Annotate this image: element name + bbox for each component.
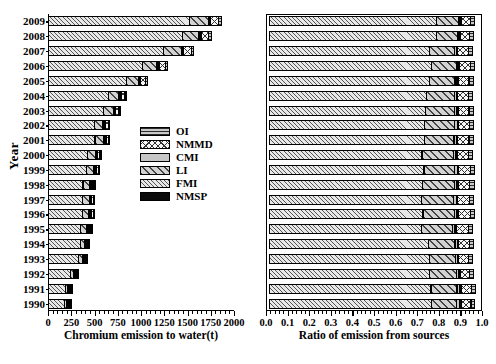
bar-row: 1990 — [48, 299, 234, 309]
bar-segment-oi — [468, 46, 473, 56]
bar-segment-fmi — [269, 180, 423, 190]
bar-row — [266, 209, 482, 219]
x-major-tick — [439, 311, 440, 316]
x-tick-label-250: 250 — [63, 317, 79, 328]
bar-segment-oi — [86, 254, 88, 264]
bar-segment-li — [429, 76, 456, 86]
x-minor-tick — [178, 311, 179, 314]
x-minor-tick — [206, 311, 207, 314]
bar-segment-oi — [470, 209, 475, 219]
x-minor-tick — [225, 311, 226, 314]
bar-row — [266, 195, 482, 205]
legend-swatch-fmi — [140, 179, 170, 188]
bar-segment-fmi — [48, 150, 88, 160]
x-major-tick — [141, 311, 142, 316]
bar-segment-oi — [208, 31, 212, 41]
bar-segment-nmmd — [456, 224, 469, 234]
x-minor-tick — [434, 311, 435, 314]
x-minor-tick — [318, 311, 319, 314]
x-axis-title-left: Chromium emission to water(t) — [64, 329, 218, 341]
stacked-bar-absolute — [48, 91, 127, 101]
y-tick-label-2006: 2006 — [23, 61, 45, 71]
stacked-bar-absolute — [48, 284, 73, 294]
bar-segment-oi — [469, 269, 474, 279]
x-major-tick — [95, 311, 96, 316]
bar-row — [266, 76, 482, 86]
bar-segment-oi — [108, 120, 110, 130]
bar-segment-fmi — [269, 106, 426, 116]
bar-segment-li — [163, 46, 182, 56]
bar-segment-fmi — [48, 195, 83, 205]
bar-segment-fmi — [48, 76, 127, 86]
x-tick-label-0.1: 0.1 — [281, 317, 294, 328]
x-minor-tick — [220, 311, 221, 314]
stacked-bar-ratio — [266, 209, 475, 219]
bar-segment-fmi — [48, 299, 65, 309]
x-minor-tick — [192, 311, 193, 314]
bar-segment-li — [429, 254, 456, 264]
bar-segment-oi — [471, 284, 476, 294]
legend-item-cmi: CMI — [140, 152, 213, 163]
x-tick-label-2000: 2000 — [224, 317, 245, 328]
bar-segment-li — [142, 61, 157, 71]
y-tick-label-2004: 2004 — [23, 91, 45, 101]
bar-segment-fmi — [48, 106, 104, 116]
stacked-bar-ratio — [266, 120, 474, 130]
y-tick-label-1994: 1994 — [23, 239, 45, 249]
legend-swatch-cmi — [140, 153, 170, 162]
bar-segment-li — [431, 284, 458, 294]
y-tick-label-1992: 1992 — [23, 269, 45, 279]
x-axis-title-right: Ratio of emission from sources — [299, 329, 449, 341]
bar-segment-li — [436, 31, 458, 41]
x-minor-tick — [404, 311, 405, 314]
bar-segment-fmi — [269, 120, 425, 130]
legend-swatch-oi — [140, 127, 170, 136]
y-tick-label-2001: 2001 — [23, 135, 45, 145]
stacked-bar-absolute — [48, 46, 194, 56]
stacked-bar-ratio — [266, 16, 475, 26]
legend-item-li: LI — [140, 165, 213, 176]
bar-row — [266, 180, 482, 190]
x-minor-tick — [76, 311, 77, 314]
x-minor-tick — [443, 311, 444, 314]
y-tick-label-2008: 2008 — [23, 31, 45, 41]
bar-segment-fmi — [269, 195, 422, 205]
stacked-bar-absolute — [48, 209, 95, 219]
bar-segment-oi — [119, 106, 121, 116]
x-minor-tick — [150, 311, 151, 314]
x-minor-tick — [357, 311, 358, 314]
stacked-bar-absolute — [48, 254, 88, 264]
x-minor-tick — [422, 311, 423, 314]
bar-segment-nmmd — [458, 180, 470, 190]
stacked-bar-absolute — [48, 180, 96, 190]
x-minor-tick — [62, 311, 63, 314]
bar-segment-oi — [71, 284, 73, 294]
legend-swatch-li — [140, 166, 170, 175]
bar-segment-oi — [108, 135, 110, 145]
bar-segment-oi — [469, 31, 473, 41]
stacked-bar-ratio — [266, 269, 474, 279]
bar-row — [266, 16, 482, 26]
y-tick-label-2005: 2005 — [23, 76, 45, 86]
x-minor-tick — [57, 311, 58, 314]
bar-row: 1996 — [48, 209, 234, 219]
bar-segment-nmmd — [457, 135, 469, 145]
x-major-tick — [211, 311, 212, 316]
y-tick-label-1999: 1999 — [23, 165, 45, 175]
x-tick-label-1.0: 1.0 — [475, 317, 488, 328]
x-minor-tick — [361, 311, 362, 314]
bar-segment-fmi — [269, 224, 422, 234]
bar-row — [266, 165, 482, 175]
x-minor-tick — [348, 311, 349, 314]
x-tick-label-0.5: 0.5 — [367, 317, 380, 328]
bar-segment-nmmd — [458, 165, 470, 175]
x-minor-tick — [391, 311, 392, 314]
x-major-tick — [374, 311, 375, 316]
bar-segment-fmi — [48, 165, 87, 175]
legend-label: NMSP — [176, 191, 207, 202]
x-minor-tick — [339, 311, 340, 314]
x-minor-tick — [465, 311, 466, 314]
x-tick-label-500: 500 — [87, 317, 103, 328]
bar-segment-oi — [93, 195, 95, 205]
bar-segment-oi — [93, 209, 95, 219]
